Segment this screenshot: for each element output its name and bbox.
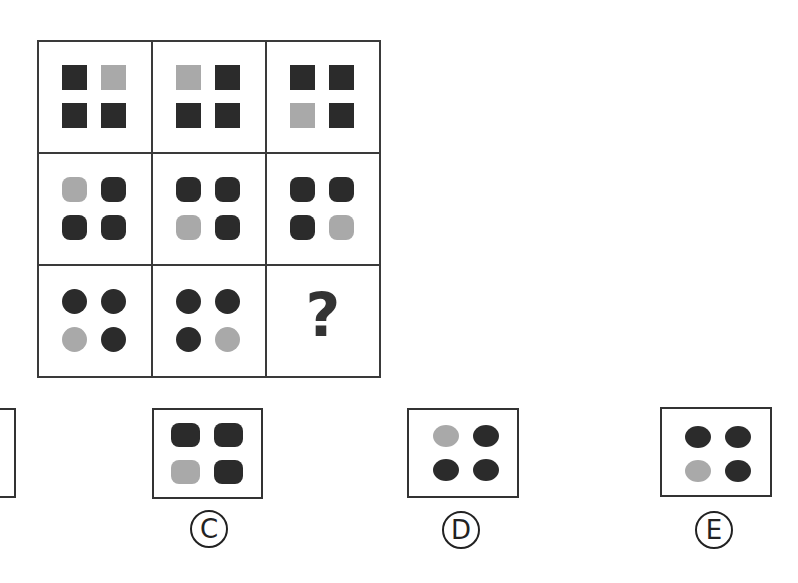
option-d-box[interactable] xyxy=(407,408,519,498)
light-square-icon xyxy=(290,103,315,128)
dark-ellipse-icon xyxy=(725,460,751,482)
dark-circle-icon xyxy=(176,289,201,314)
dark-circle-icon xyxy=(62,289,87,314)
matrix-cell-r1c1 xyxy=(39,42,153,154)
light-circle-icon xyxy=(62,327,87,352)
dark-square-icon xyxy=(62,65,87,90)
option-d-label[interactable]: D xyxy=(442,511,480,549)
dark-rounded-square-icon xyxy=(176,177,201,202)
matrix-cell-r3c2 xyxy=(153,266,267,376)
dark-rounded-square-icon xyxy=(290,177,315,202)
light-rounded-square-icon xyxy=(329,215,354,240)
dark-ellipse-icon xyxy=(725,426,751,448)
matrix-cell-r1c3 xyxy=(267,42,379,154)
matrix-cell-missing: ? xyxy=(267,266,379,376)
light-ellipse-icon xyxy=(433,425,459,447)
puzzle-matrix: ? xyxy=(37,40,381,378)
dark-circle-icon xyxy=(215,289,240,314)
dark-ellipse-icon xyxy=(473,459,499,481)
dark-square-icon xyxy=(62,103,87,128)
dark-circle-icon xyxy=(101,327,126,352)
dark-rounded-square-icon xyxy=(290,215,315,240)
dark-rounded-square-icon xyxy=(214,423,243,447)
light-circle-icon xyxy=(215,327,240,352)
question-mark: ? xyxy=(267,282,379,348)
dark-square-icon xyxy=(329,103,354,128)
dark-square-icon xyxy=(101,103,126,128)
dark-ellipse-icon xyxy=(473,425,499,447)
matrix-cell-r2c2 xyxy=(153,154,267,266)
dark-rounded-square-icon xyxy=(171,423,200,447)
dark-circle-icon xyxy=(101,289,126,314)
light-square-icon xyxy=(101,65,126,90)
dark-ellipse-icon xyxy=(433,459,459,481)
light-ellipse-icon xyxy=(685,460,711,482)
light-rounded-square-icon xyxy=(176,215,201,240)
dark-circle-icon xyxy=(176,327,201,352)
matrix-cell-r3c1 xyxy=(39,266,153,376)
dark-ellipse-icon xyxy=(685,426,711,448)
dark-rounded-square-icon xyxy=(329,177,354,202)
dark-rounded-square-icon xyxy=(215,215,240,240)
option-c-box[interactable] xyxy=(152,408,263,499)
option-b-box[interactable] xyxy=(0,408,16,498)
dark-square-icon xyxy=(215,65,240,90)
dark-square-icon xyxy=(290,65,315,90)
matrix-cell-r2c3 xyxy=(267,154,379,266)
dark-square-icon xyxy=(215,103,240,128)
light-rounded-square-icon xyxy=(62,177,87,202)
matrix-cell-r1c2 xyxy=(153,42,267,154)
matrix-cell-r2c1 xyxy=(39,154,153,266)
light-square-icon xyxy=(176,65,201,90)
option-e-box[interactable] xyxy=(660,407,772,497)
dark-rounded-square-icon xyxy=(101,177,126,202)
option-e-label[interactable]: E xyxy=(695,511,733,549)
dark-square-icon xyxy=(176,103,201,128)
light-rounded-square-icon xyxy=(171,460,200,484)
dark-rounded-square-icon xyxy=(101,215,126,240)
dark-rounded-square-icon xyxy=(215,177,240,202)
option-c-label[interactable]: C xyxy=(190,510,228,548)
dark-square-icon xyxy=(329,65,354,90)
dark-rounded-square-icon xyxy=(62,215,87,240)
dark-rounded-square-icon xyxy=(214,460,243,484)
